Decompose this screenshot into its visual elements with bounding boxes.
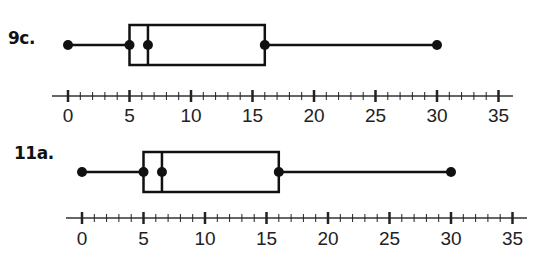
tick-label: 20 <box>317 228 338 249</box>
tick-label: 5 <box>124 105 135 126</box>
tick-label: 15 <box>242 105 263 126</box>
tick-label: 5 <box>138 228 149 249</box>
tick-label: 15 <box>256 228 277 249</box>
box-plots: 0510152025303505101520253035 <box>0 0 537 261</box>
point-q1 <box>125 40 135 50</box>
tick-label: 35 <box>488 105 509 126</box>
tick-label: 30 <box>426 105 447 126</box>
point-q3 <box>274 167 284 177</box>
point-median <box>157 167 167 177</box>
point-median <box>143 40 153 50</box>
tick-label: 20 <box>303 105 324 126</box>
point-max <box>432 40 442 50</box>
tick-label: 0 <box>77 228 88 249</box>
point-min <box>77 167 87 177</box>
tick-label: 0 <box>63 105 74 126</box>
tick-label: 30 <box>440 228 461 249</box>
tick-label: 25 <box>365 105 386 126</box>
point-min <box>63 40 73 50</box>
tick-label: 25 <box>379 228 400 249</box>
tick-label: 10 <box>194 228 215 249</box>
point-q3 <box>260 40 270 50</box>
point-max <box>446 167 456 177</box>
tick-label: 10 <box>180 105 201 126</box>
point-q1 <box>139 167 149 177</box>
tick-label: 35 <box>502 228 523 249</box>
